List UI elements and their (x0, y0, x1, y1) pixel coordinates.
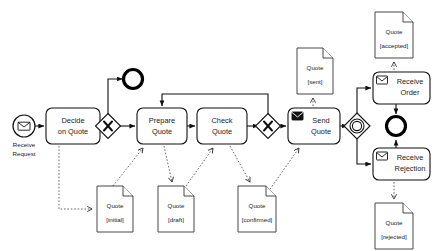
assoc-quote-initial-to-prepare (113, 148, 143, 186)
assoc-check-to-quote-confirmed (230, 146, 250, 182)
task-label-line1: Decide (61, 116, 84, 125)
end-event-upper[interactable] (124, 70, 143, 89)
bpmn-diagram-svg: Quote [initial] Quote [draft] Quote [con… (0, 0, 435, 251)
data-object-quote-sent[interactable]: Quote [sent] (297, 48, 333, 94)
task-check-quote[interactable]: Check Quote (197, 108, 247, 144)
task-label-line1: Send (312, 116, 329, 125)
start-event-receive-request[interactable]: Receive Request (12, 115, 35, 157)
data-object-quote-confirmed[interactable]: Quote [confirmed] (238, 186, 276, 232)
data-object-name: Quote (386, 219, 403, 226)
assoc-prepare-to-quote-draft (164, 146, 172, 182)
event-based-gateway[interactable] (344, 113, 370, 139)
task-label-line2: Quote (152, 127, 172, 136)
envelope-solid-icon (292, 112, 303, 120)
task-label-line2: on Quote (58, 127, 88, 136)
task-label-line2: Quote (311, 127, 331, 136)
task-label-line1: Check (212, 116, 233, 125)
data-object-state: [draft] (168, 216, 184, 223)
task-label-line1: Receive (397, 153, 424, 162)
bpmn-diagram-canvas: Quote [initial] Quote [draft] Quote [con… (0, 0, 435, 251)
envelope-outline-icon (377, 76, 388, 84)
data-object-name: Quote (307, 64, 324, 71)
task-send-quote[interactable]: Send Quote (288, 108, 340, 144)
data-object-quote-rejected[interactable]: Quote [rejected] (375, 203, 413, 249)
data-object-quote-initial[interactable]: Quote [initial] (97, 186, 133, 232)
envelope-outline-icon (377, 152, 388, 160)
start-event-label-line2: Request (12, 150, 35, 157)
data-object-name: Quote (168, 202, 185, 209)
data-object-state: [confirmed] (242, 216, 273, 223)
flow-event-gateway-to-receive-rejection (357, 136, 371, 164)
task-label-line1: Receive (397, 77, 424, 86)
task-receive-rejection[interactable]: Receive Rejection (373, 148, 430, 180)
assoc-quote-draft-to-check (186, 148, 213, 186)
task-label-line2: Rejection (395, 164, 426, 173)
data-object-state: [accepted] (380, 42, 409, 49)
data-object-state: [rejected] (381, 233, 407, 240)
task-decide-on-quote[interactable]: Decide on Quote (46, 108, 100, 144)
task-label-line2: Order (401, 88, 420, 97)
data-object-quote-accepted[interactable]: Quote [accepted] (375, 12, 413, 58)
data-object-quote-draft[interactable]: Quote [draft] (158, 186, 194, 232)
data-object-name: Quote (386, 28, 403, 35)
task-prepare-quote[interactable]: Prepare Quote (137, 108, 187, 144)
task-label-line2: Quote (212, 127, 232, 136)
assoc-decide-to-quote-initial (59, 146, 92, 209)
flow-gateway-to-end-rejected (108, 79, 123, 116)
data-object-state: [sent] (307, 78, 322, 85)
end-event-final[interactable] (387, 117, 406, 136)
data-object-name: Quote (249, 202, 266, 209)
envelope-outline-icon (18, 122, 30, 130)
flow-event-gateway-to-receive-order (357, 88, 371, 116)
exclusive-gateway-after-check[interactable] (256, 114, 281, 139)
task-label-line1: Prepare (149, 116, 175, 125)
assoc-quote-confirmed-to-send (268, 148, 299, 192)
task-receive-order[interactable]: Receive Order (373, 72, 430, 104)
data-object-name: Quote (107, 202, 124, 209)
data-object-state: [initial] (106, 216, 124, 223)
start-event-label-line1: Receive (13, 141, 36, 148)
